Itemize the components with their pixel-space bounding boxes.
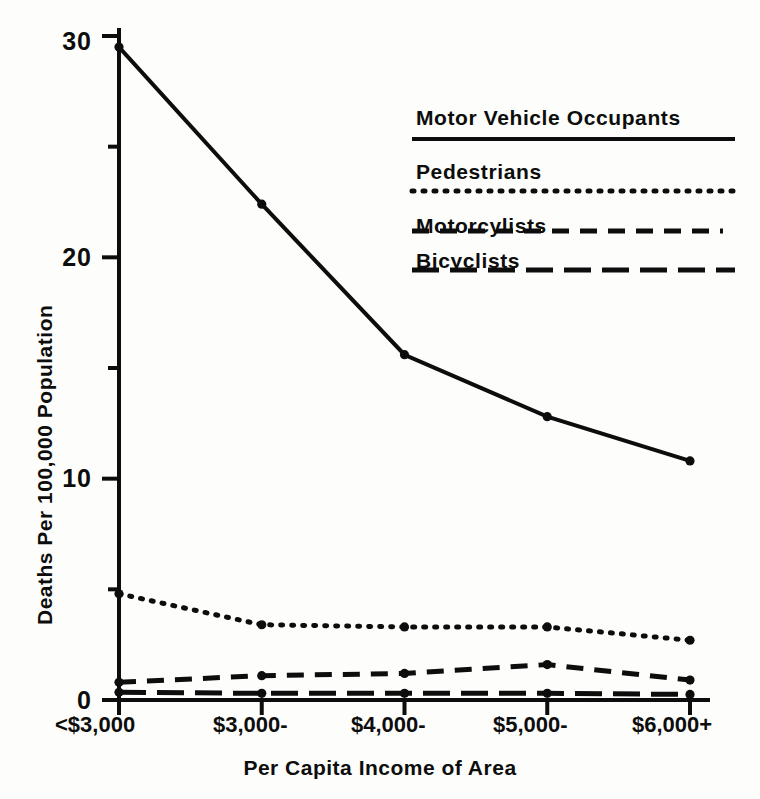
data-point-2-1: [257, 671, 266, 680]
data-point-0-4: [685, 456, 694, 465]
data-point-0-0: [114, 42, 123, 51]
plot-area: [0, 0, 760, 799]
data-point-1-0: [114, 589, 123, 598]
data-point-2-2: [400, 669, 409, 678]
data-point-1-2: [400, 622, 409, 631]
data-point-3-0: [114, 688, 123, 697]
series-line-1: [119, 594, 690, 640]
data-point-3-4: [685, 690, 694, 699]
data-point-1-3: [543, 622, 552, 631]
data-point-2-0: [114, 678, 123, 687]
data-point-0-1: [257, 200, 266, 209]
data-point-3-3: [543, 689, 552, 698]
data-point-1-1: [257, 620, 266, 629]
data-point-1-4: [685, 636, 694, 645]
series-line-0: [119, 47, 690, 461]
data-point-2-4: [685, 675, 694, 684]
data-point-0-3: [543, 412, 552, 421]
data-point-3-2: [400, 689, 409, 698]
data-point-3-1: [257, 689, 266, 698]
chart-figure: 30 20 10 0 Deaths Per 100,000 Population…: [0, 0, 760, 799]
data-point-0-2: [400, 350, 409, 359]
data-point-2-3: [543, 660, 552, 669]
